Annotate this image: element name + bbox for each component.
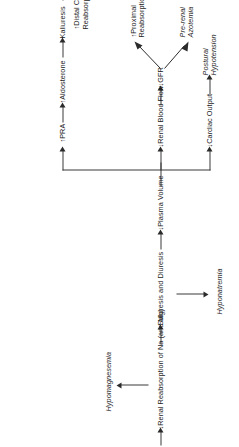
node-proximal-reabsorption: ↑Proximal Reabsorption: [129, 0, 146, 37]
node-postural-hypotension: Postural Hypotension: [201, 34, 218, 75]
node-distal-ca-reabsorption: ↑Distal Ca++Reabsorption: [69, 0, 89, 29]
node-gfr: ↓GFR: [156, 67, 164, 86]
node-kaliuresis: Kaliuresis: [58, 6, 66, 38]
diagram-screenshot: ↓Renal Reabsorption of Na (and Mg) Hypom…: [0, 0, 239, 447]
connector-inflow: [160, 431, 161, 445]
node-renal-blood-flow: ↓Renal Blood Flow: [156, 85, 164, 147]
node-hypomagnesemia: Hypomagnesemia: [104, 351, 112, 411]
connector-pra-aldosterone: [62, 106, 63, 122]
node-renal-reabsorption: ↓Renal Reabsorption of Na (and Mg): [156, 308, 164, 429]
arrowhead-trunk-pra: [59, 146, 65, 151]
node-plasma-volume: ↓Plasma Volume: [156, 175, 164, 230]
node-pra: ↑PRA: [58, 123, 66, 142]
node-saluresis-diuresis: Saluresis and Diuresis: [156, 251, 164, 325]
connector-saluresis-hyponatremia: [176, 293, 204, 294]
distal-ca-line2: Reabsorption: [80, 0, 89, 29]
connector-aldosterone-kaliuresis: [62, 41, 63, 57]
distal-ca-line1: ↑Distal Ca: [71, 0, 80, 29]
node-hyponatremia: Hyponatremia: [215, 268, 223, 314]
connector-gfr-fan: [126, 35, 196, 69]
arrowhead-saluresis-hyponatremia: [203, 291, 208, 297]
node-aldosterone: ↑Aldosterone: [58, 60, 66, 103]
connector-trunk-pra: [62, 150, 63, 170]
connector-proximal-uricacid: [160, 0, 214, 1]
node-cardiac-output: ↓Cardiac Output: [205, 94, 213, 147]
connector-reabsorption-hypomagnesemia: [120, 384, 148, 385]
connector-cardiacoutput-postural: [209, 78, 210, 94]
node-prerenal-azotemia: Pre-renal Azotemia: [178, 6, 195, 37]
connector-branch-trunk: [62, 169, 210, 170]
arrowhead-reabsorption-hypomagnesemia: [116, 382, 121, 388]
connector-saluresis-plasmavolume: [160, 233, 161, 249]
connector-trunk-renalbloodflow: [160, 150, 161, 170]
connector-trunk-cardiacoutput: [209, 150, 210, 170]
flowchart-canvas: ↓Renal Reabsorption of Na (and Mg) Hypom…: [0, 0, 239, 447]
